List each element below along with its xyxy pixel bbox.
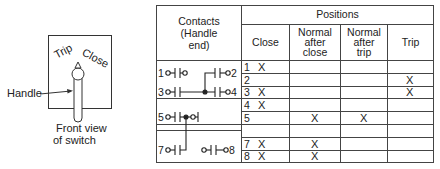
contacts-header-line1: Contacts [157,16,241,27]
mark-r3-trip: X [406,87,413,98]
terminal-7: 7 [158,145,164,156]
mark-r4-close: X [258,100,265,111]
row-num-4: 4 [244,100,250,111]
terminal-1: 1 [158,68,164,79]
terminal-3: 3 [158,87,164,98]
contact-symbols [166,68,230,155]
terminal-5: 5 [158,112,164,123]
col-header-normal-after-close-3: close [290,47,340,58]
mark-r3-close: X [258,87,265,98]
row-num-5: 5 [244,113,250,124]
mark-r7-nac: X [311,139,318,150]
mark-r1-close: X [258,62,265,73]
mark-r8-close: X [258,151,265,162]
mark-r5-nat: X [360,113,367,124]
mark-r5-nac: X [311,113,318,124]
contacts-header-line2: (Handle [157,28,241,39]
positions-header: Positions [242,9,433,20]
row-num-1: 1 [244,62,250,73]
terminal-4: 4 [231,87,237,98]
row-num-3: 3 [244,87,250,98]
row-num-2: 2 [244,75,250,86]
row-num-8: 8 [244,151,250,162]
mark-r2-trip: X [406,75,413,86]
col-header-normal-after-trip-3: trip [341,47,387,58]
row-num-7: 7 [244,139,250,150]
mark-r8-nac: X [311,151,318,162]
mark-r7-close: X [258,139,265,150]
terminal-2: 2 [231,68,237,79]
contacts-header-line3: end) [157,40,241,51]
col-header-trip: Trip [388,37,433,48]
terminal-8: 8 [229,145,235,156]
col-header-close: Close [242,37,289,48]
